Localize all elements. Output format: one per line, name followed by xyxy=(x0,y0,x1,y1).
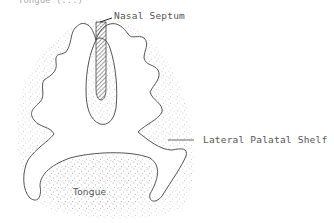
label-lateral-palatal-shelf: Lateral Palatal Shelf xyxy=(203,134,327,145)
nasal-septum-hatched xyxy=(96,22,106,100)
label-tongue: Tongue xyxy=(73,187,106,197)
palate-diagram xyxy=(0,0,334,223)
label-nasal-septum: Nasal Septum xyxy=(114,10,185,21)
